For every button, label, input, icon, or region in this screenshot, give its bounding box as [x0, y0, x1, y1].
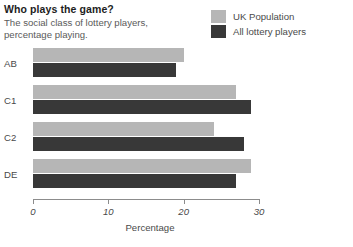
- chart-subtitle: The social class of lottery players, per…: [4, 17, 204, 42]
- chart-plot-area: AB C1 C2 DE 0102030 Percentage: [0, 45, 353, 247]
- bar-DE-all-lottery-players: [33, 174, 236, 188]
- category-label-C2: C2: [4, 132, 30, 143]
- bar-C2-uk-population: [33, 122, 214, 136]
- header-block: Who plays the game? The social class of …: [4, 3, 204, 42]
- x-axis: 0102030 Percentage: [0, 199, 353, 247]
- bar-DE-uk-population: [33, 159, 251, 173]
- bars-container: AB C1 C2 DE: [0, 45, 353, 199]
- bar-AB-uk-population: [33, 48, 184, 62]
- bar-group-C2: C2: [0, 122, 353, 152]
- x-tick-0: [33, 199, 34, 204]
- category-label-DE: DE: [4, 169, 30, 180]
- legend-swatch-all-lottery-players: [211, 25, 226, 38]
- bar-group-AB: AB: [0, 48, 353, 78]
- x-axis-line: [33, 199, 259, 200]
- legend-item-uk-population: UK Population: [211, 9, 351, 24]
- x-tick-label-20: 20: [178, 206, 189, 217]
- bar-group-DE: DE: [0, 159, 353, 189]
- x-tick-label-0: 0: [30, 206, 35, 217]
- chart-legend: UK Population All lottery players: [211, 9, 351, 39]
- legend-label-all-lottery-players: All lottery players: [233, 25, 306, 38]
- x-tick-label-30: 30: [254, 206, 265, 217]
- bar-C2-all-lottery-players: [33, 137, 244, 151]
- legend-item-all-lottery-players: All lottery players: [211, 24, 351, 39]
- x-tick-30: [259, 199, 260, 204]
- x-tick-label-10: 10: [103, 206, 114, 217]
- category-label-AB: AB: [4, 58, 30, 69]
- x-axis-title: Percentage: [0, 222, 300, 233]
- page-title: Who plays the game?: [4, 3, 204, 16]
- x-tick-20: [184, 199, 185, 204]
- bar-group-C1: C1: [0, 85, 353, 115]
- bar-C1-uk-population: [33, 85, 236, 99]
- legend-label-uk-population: UK Population: [233, 10, 294, 23]
- x-tick-10: [108, 199, 109, 204]
- bar-C1-all-lottery-players: [33, 100, 251, 114]
- legend-swatch-uk-population: [211, 10, 226, 23]
- category-label-C1: C1: [4, 95, 30, 106]
- bar-AB-all-lottery-players: [33, 63, 176, 77]
